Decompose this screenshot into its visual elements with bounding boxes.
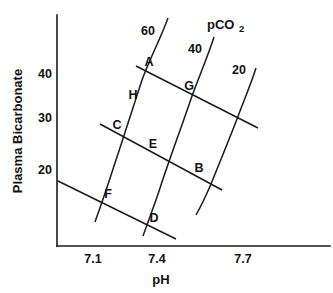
point-labels: A H C F G E D B bbox=[104, 55, 203, 225]
legend-title-group: pCO 2 bbox=[207, 17, 244, 34]
chart-canvas: 40 30 20 7.1 7.4 7.7 pH Plasma Bicarbona… bbox=[0, 0, 333, 293]
lower-buffer-line bbox=[58, 181, 176, 239]
isobar-curve-20 bbox=[196, 68, 256, 215]
isobar-label-40: 40 bbox=[188, 42, 202, 56]
x-tick-labels: 7.1 7.4 7.7 bbox=[84, 252, 251, 266]
point-label-H: H bbox=[128, 88, 137, 102]
legend-title-subscript: 2 bbox=[239, 23, 244, 34]
y-axis-title: Plasma Bicarbonate bbox=[10, 69, 25, 193]
y-tick-labels: 40 30 20 bbox=[38, 67, 52, 177]
x-tick-label-7-4: 7.4 bbox=[148, 252, 165, 266]
acid-base-nomogram-chart: 40 30 20 7.1 7.4 7.7 pH Plasma Bicarbona… bbox=[0, 0, 333, 293]
point-label-A: A bbox=[144, 55, 153, 69]
x-tick-label-7-7: 7.7 bbox=[234, 252, 251, 266]
y-tick-label-30: 30 bbox=[38, 111, 52, 125]
point-label-C: C bbox=[112, 118, 121, 132]
y-tick-label-20: 20 bbox=[38, 163, 52, 177]
point-label-E: E bbox=[149, 137, 157, 151]
isobar-label-60: 60 bbox=[141, 24, 155, 38]
point-label-F: F bbox=[104, 187, 112, 201]
isobar-label-20: 20 bbox=[232, 63, 246, 77]
x-axis-title: pH bbox=[152, 272, 169, 287]
x-tick-label-7-1: 7.1 bbox=[84, 252, 101, 266]
point-label-B: B bbox=[194, 161, 203, 175]
point-label-G: G bbox=[184, 79, 194, 93]
middle-buffer-line bbox=[100, 124, 222, 190]
point-label-D: D bbox=[149, 211, 158, 225]
legend-title: pCO bbox=[207, 17, 234, 32]
y-tick-label-40: 40 bbox=[38, 67, 52, 81]
